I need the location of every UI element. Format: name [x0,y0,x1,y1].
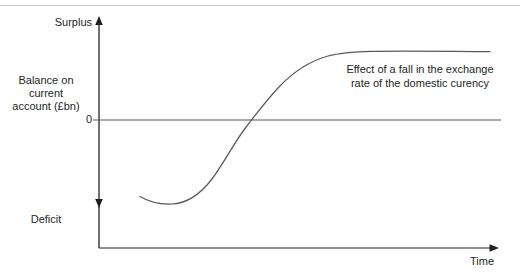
curve-annotation: Effect of a fall in the exchange rate of… [330,62,510,90]
plot-area [0,0,520,274]
y-axis-up-arrowhead-icon [95,16,103,25]
y-axis-down-arrowhead-icon [95,199,103,208]
y-axis-title-line-1: Balance on [18,74,73,86]
j-curve-figure: Surplus Balance on current account (£bn)… [0,0,520,274]
x-axis-time-label: Time [452,255,512,268]
y-axis-surplus-label: Surplus [0,16,92,29]
y-axis-title-line-3: account (£bn) [12,100,79,112]
y-axis-title-block: Balance on current account (£bn) [0,74,92,113]
curve-annotation-line-2: rate of the domestic curency [330,76,510,90]
x-axis-arrowhead-icon [490,244,500,251]
y-axis-zero-tick-label: 0 [0,113,92,126]
y-axis-deficit-label: Deficit [0,213,92,226]
curve-annotation-line-1: Effect of a fall in the exchange [330,62,510,76]
y-axis-title-line-2: current [29,87,63,99]
